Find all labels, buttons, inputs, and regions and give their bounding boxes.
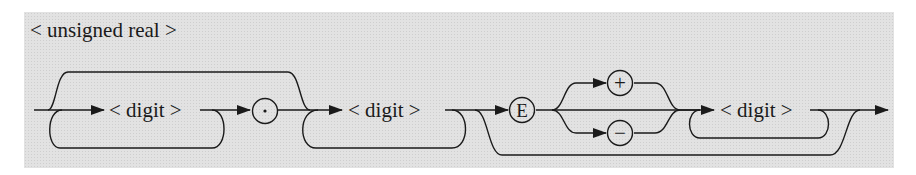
plus-merge [634, 83, 680, 110]
digit-node-2: < digit > [348, 98, 421, 122]
point-dot-icon [263, 109, 266, 112]
exp-label: E [516, 100, 528, 121]
plus-label: + [614, 71, 626, 95]
minus-label: − [614, 121, 626, 145]
minus-merge [634, 110, 680, 133]
diagram-title: < unsigned real > [30, 18, 177, 42]
arrow-to-plus [552, 83, 606, 110]
digit-node-1: < digit > [109, 98, 182, 122]
syntax-diagram: < unsigned real > [0, 0, 916, 175]
digit-node-3: < digit > [720, 98, 793, 122]
arrow-to-minus [552, 110, 606, 133]
